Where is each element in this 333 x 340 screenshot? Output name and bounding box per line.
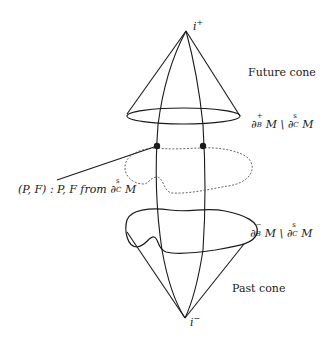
bottom-apex-sup: −: [194, 314, 201, 323]
sup: +: [257, 112, 263, 120]
pf-label: (P, F) : P, F from ∂sCM: [18, 183, 136, 196]
end: M: [125, 183, 136, 196]
top-apex-label: i+: [193, 18, 203, 33]
sub: B: [256, 230, 261, 238]
rest: M \ ∂: [266, 118, 294, 131]
pf-pointer-line: [57, 146, 157, 180]
past-boundary-scripts: −B: [256, 227, 265, 237]
past-boundary-scripts2: sC: [292, 227, 301, 237]
end: M: [302, 118, 313, 131]
point-p: [154, 143, 160, 149]
future-cone-base-ellipse: [127, 108, 240, 124]
sub: C: [116, 186, 121, 194]
future-cone-right-edge: [186, 31, 240, 116]
top-apex-sup: +: [197, 18, 204, 27]
pf-scripts: sC: [116, 183, 125, 193]
right-generator-curve: [185, 31, 205, 318]
sub: B: [257, 121, 262, 129]
past-cone-top-boundary: [126, 209, 257, 254]
end: M: [301, 227, 312, 240]
future-cone-label: Future cone: [248, 66, 316, 79]
pf-prefix: (P, F) : P, F from ∂: [18, 183, 116, 196]
left-generator-curve: [156, 31, 186, 318]
future-boundary-scripts2: sC: [293, 118, 302, 128]
point-f: [200, 143, 206, 149]
future-boundary-scripts: +B: [257, 118, 266, 128]
past-cone-right-edge: [185, 244, 244, 318]
sub2: C: [293, 121, 298, 129]
past-boundary-label: ∂−BM \ ∂sCM: [250, 227, 313, 240]
sup: s: [116, 177, 120, 185]
future-boundary-label: ∂+BM \ ∂sCM: [251, 118, 314, 131]
past-cone-left-edge: [127, 232, 185, 318]
past-cone-label: Past cone: [232, 282, 285, 295]
sub2: C: [292, 230, 297, 238]
sup: −: [256, 221, 262, 229]
bottom-apex-label: i−: [190, 314, 200, 329]
sup2: s: [293, 112, 297, 120]
diagram-canvas: i+ Future cone ∂+BM \ ∂sCM (P, F) : P, F…: [0, 0, 333, 340]
middle-surface-dashed: [125, 148, 252, 193]
rest: M \ ∂: [265, 227, 293, 240]
sup2: s: [292, 221, 296, 229]
future-cone-left-edge: [127, 31, 186, 114]
